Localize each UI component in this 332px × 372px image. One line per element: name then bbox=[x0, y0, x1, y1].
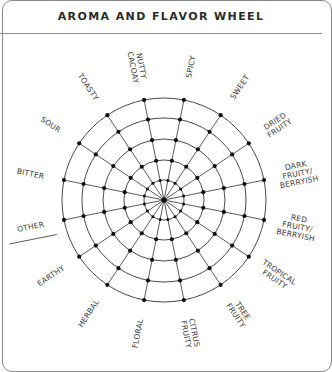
intensity-node[interactable] bbox=[262, 218, 266, 222]
intensity-node[interactable] bbox=[146, 187, 149, 190]
intensity-node[interactable] bbox=[195, 176, 199, 180]
category-label-text: SWEET bbox=[228, 73, 251, 101]
intensity-node[interactable] bbox=[150, 258, 154, 262]
intensity-node[interactable] bbox=[154, 237, 158, 241]
intensity-node[interactable] bbox=[62, 178, 66, 182]
intensity-node[interactable] bbox=[129, 220, 133, 224]
category-label-sour: SOUR bbox=[39, 115, 63, 135]
intensity-node[interactable] bbox=[247, 255, 251, 259]
intensity-node[interactable] bbox=[123, 190, 127, 194]
intensity-node[interactable] bbox=[102, 210, 106, 214]
intensity-node[interactable] bbox=[174, 258, 178, 262]
intensity-node[interactable] bbox=[128, 147, 132, 151]
intensity-node[interactable] bbox=[219, 283, 223, 287]
category-label-text: SOUR bbox=[39, 115, 63, 135]
intensity-node[interactable] bbox=[116, 266, 120, 270]
intensity-node[interactable] bbox=[170, 237, 174, 241]
intensity-node[interactable] bbox=[81, 182, 85, 186]
intensity-node[interactable] bbox=[262, 178, 266, 182]
intensity-node[interactable] bbox=[77, 255, 81, 259]
intensity-node[interactable] bbox=[174, 138, 178, 142]
intensity-node[interactable] bbox=[213, 164, 217, 168]
intensity-node[interactable] bbox=[146, 278, 150, 282]
intensity-node[interactable] bbox=[174, 215, 177, 218]
intensity-node[interactable] bbox=[129, 176, 133, 180]
intensity-node[interactable] bbox=[222, 186, 226, 190]
category-label-text: FLORAL bbox=[130, 317, 145, 349]
intensity-node[interactable] bbox=[140, 165, 144, 169]
intensity-node[interactable] bbox=[159, 179, 162, 182]
write-in-line[interactable] bbox=[10, 235, 57, 244]
intensity-node[interactable] bbox=[207, 266, 211, 270]
intensity-node[interactable] bbox=[154, 159, 158, 163]
wheel-center-node bbox=[161, 197, 166, 202]
intensity-node[interactable] bbox=[116, 130, 120, 134]
intensity-node[interactable] bbox=[159, 218, 162, 221]
intensity-node[interactable] bbox=[219, 113, 223, 117]
category-label-toasty: TOASTY bbox=[75, 71, 100, 103]
intensity-node[interactable] bbox=[182, 202, 185, 205]
intensity-node[interactable] bbox=[179, 210, 182, 213]
intensity-node[interactable] bbox=[77, 141, 81, 145]
intensity-node[interactable] bbox=[166, 179, 169, 182]
wheel-nodes[interactable] bbox=[62, 98, 266, 302]
intensity-node[interactable] bbox=[146, 117, 150, 121]
category-label-text: TOASTY bbox=[75, 71, 100, 103]
intensity-node[interactable] bbox=[196, 249, 200, 253]
intensity-node[interactable] bbox=[140, 231, 144, 235]
intensity-node[interactable] bbox=[230, 243, 234, 247]
intensity-node[interactable] bbox=[178, 117, 182, 121]
category-label-red-fruity-berryish: REDFRUITY/BERRYISH bbox=[276, 210, 319, 243]
intensity-node[interactable] bbox=[94, 152, 98, 156]
category-label-bitter: BITTER bbox=[16, 167, 46, 181]
intensity-node[interactable] bbox=[128, 249, 132, 253]
intensity-node[interactable] bbox=[146, 210, 149, 213]
intensity-node[interactable] bbox=[242, 182, 246, 186]
intensity-node[interactable] bbox=[184, 165, 188, 169]
intensity-node[interactable] bbox=[178, 278, 182, 282]
intensity-node[interactable] bbox=[150, 138, 154, 142]
intensity-node[interactable] bbox=[184, 231, 188, 235]
intensity-node[interactable] bbox=[123, 206, 127, 210]
category-label-tropical-fruity: TROPICALFRUITY bbox=[255, 257, 298, 294]
intensity-node[interactable] bbox=[182, 98, 186, 102]
intensity-node[interactable] bbox=[247, 141, 251, 145]
category-label-citrus-fruity: CITRUSFRUITY bbox=[179, 318, 202, 350]
intensity-node[interactable] bbox=[111, 164, 115, 168]
intensity-node[interactable] bbox=[213, 232, 217, 236]
intensity-node[interactable] bbox=[111, 232, 115, 236]
intensity-node[interactable] bbox=[242, 214, 246, 218]
category-label-spicy: SPICY bbox=[184, 55, 197, 79]
intensity-node[interactable] bbox=[102, 186, 106, 190]
intensity-node[interactable] bbox=[207, 130, 211, 134]
intensity-node[interactable] bbox=[174, 182, 177, 185]
intensity-node[interactable] bbox=[179, 187, 182, 190]
intensity-node[interactable] bbox=[195, 220, 199, 224]
category-label-sweet: SWEET bbox=[228, 73, 251, 101]
intensity-node[interactable] bbox=[201, 190, 205, 194]
intensity-node[interactable] bbox=[151, 182, 154, 185]
intensity-node[interactable] bbox=[230, 152, 234, 156]
intensity-node[interactable] bbox=[182, 298, 186, 302]
intensity-node[interactable] bbox=[170, 159, 174, 163]
intensity-node[interactable] bbox=[143, 202, 146, 205]
category-label-nutty-cacoay: NUTTYCACOAY bbox=[126, 49, 149, 84]
intensity-node[interactable] bbox=[81, 214, 85, 218]
intensity-node[interactable] bbox=[105, 113, 109, 117]
intensity-node[interactable] bbox=[105, 283, 109, 287]
intensity-node[interactable] bbox=[201, 206, 205, 210]
category-label-other: OTHER bbox=[6, 218, 56, 244]
intensity-node[interactable] bbox=[151, 215, 154, 218]
category-label-earthy: EARTHY bbox=[36, 263, 67, 288]
intensity-node[interactable] bbox=[222, 210, 226, 214]
intensity-node[interactable] bbox=[166, 218, 169, 221]
intensity-node[interactable] bbox=[196, 147, 200, 151]
intensity-node[interactable] bbox=[62, 218, 66, 222]
intensity-node[interactable] bbox=[182, 195, 185, 198]
intensity-node[interactable] bbox=[142, 98, 146, 102]
intensity-node[interactable] bbox=[142, 298, 146, 302]
category-label-text: OTHER bbox=[16, 220, 45, 234]
intensity-node[interactable] bbox=[94, 243, 98, 247]
intensity-node[interactable] bbox=[143, 195, 146, 198]
